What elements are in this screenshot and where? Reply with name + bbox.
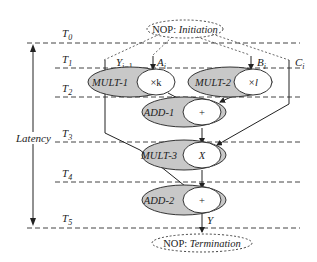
nop-termination-node: NOP: Termination xyxy=(152,234,252,252)
mult3-op: X xyxy=(198,150,206,161)
output-y-label: Y xyxy=(207,214,215,226)
t3-label: T3 xyxy=(62,127,72,142)
latency-arrow: Latency xyxy=(14,44,54,226)
op-mult1-node: MULT-1 ×k xyxy=(88,67,175,97)
t2-label: T2 xyxy=(62,82,72,97)
mult1-op: ×k xyxy=(150,77,162,88)
latency-label: Latency xyxy=(15,132,51,144)
mult2-op: ×l xyxy=(248,77,258,88)
op-add1-node: ADD-1 + xyxy=(142,97,226,127)
add2-op: + xyxy=(199,195,205,206)
op-mult2-node: MULT-2 ×l xyxy=(188,67,272,97)
mult3-name: MULT-3 xyxy=(140,150,177,161)
add1-name: ADD-1 xyxy=(143,107,174,118)
op-add2-node: ADD-2 + xyxy=(142,185,226,215)
mult2-name: MULT-2 xyxy=(194,77,232,88)
svg-text:NOP: Initiation: NOP: Initiation xyxy=(152,24,218,35)
add2-name: ADD-2 xyxy=(143,195,175,206)
op-mult3-node: MULT-3 X xyxy=(140,140,226,170)
svg-text:NOP: Termination: NOP: Termination xyxy=(163,238,241,249)
input-b-label: Bi xyxy=(257,56,266,71)
input-c-label: Ci xyxy=(295,56,305,71)
mult1-name: MULT-1 xyxy=(91,77,128,88)
t5-label: T5 xyxy=(62,212,72,227)
t1-label: T1 xyxy=(62,53,72,68)
dataflow-diagram: T0 T1 T2 T3 T4 T5 Latency NOP: Initiatio… xyxy=(0,0,317,262)
add1-op: + xyxy=(199,107,205,118)
nop-initiation-node: NOP: Initiation xyxy=(147,20,223,38)
t4-label: T4 xyxy=(62,167,72,182)
time-labels: T0 T1 T2 T3 T4 T5 xyxy=(62,27,72,227)
t0-label: T0 xyxy=(62,27,72,42)
